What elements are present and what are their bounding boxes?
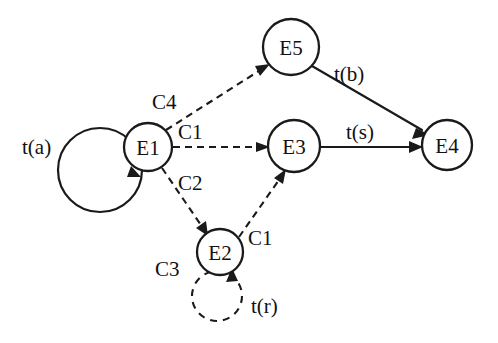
node-label-e3: E3	[282, 135, 305, 159]
arrowhead-c4	[255, 64, 270, 76]
edge-label-t-s: t(s)	[346, 120, 374, 144]
node-label-e1: E1	[136, 136, 159, 160]
edge-label-c1-upper: C1	[178, 120, 203, 144]
node-e1[interactable]: E1	[124, 123, 172, 171]
diagram-svg: E1 E2 E3 E4 E5 t(a) C4 C1 C2 C1 C3 t(r) …	[0, 0, 498, 343]
state-diagram-canvas: E1 E2 E3 E4 E5 t(a) C4 C1 C2 C1 C3 t(r) …	[0, 0, 498, 343]
edge-label-t-b: t(b)	[334, 62, 364, 86]
edge-label-c2: C2	[178, 171, 203, 195]
edge-label-c4: C4	[152, 90, 177, 114]
node-label-e2: E2	[208, 241, 231, 265]
node-label-e4: E4	[435, 134, 459, 158]
edge-label-t-r: t(r)	[251, 294, 278, 318]
node-e4[interactable]: E4	[422, 120, 472, 170]
edge-label-c1-lower: C1	[248, 226, 273, 250]
edge-label-t-a: t(a)	[22, 135, 51, 159]
node-e5[interactable]: E5	[263, 19, 319, 75]
arrowhead-t-s	[409, 141, 423, 153]
node-e2[interactable]: E2	[197, 229, 243, 275]
edge-label-c3: C3	[155, 257, 180, 281]
node-e3[interactable]: E3	[268, 120, 320, 172]
node-label-e5: E5	[279, 36, 302, 60]
